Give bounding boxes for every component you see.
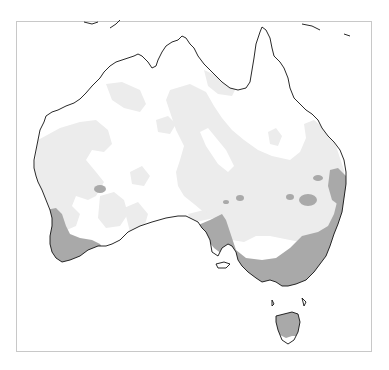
australia-map [0,0,389,370]
